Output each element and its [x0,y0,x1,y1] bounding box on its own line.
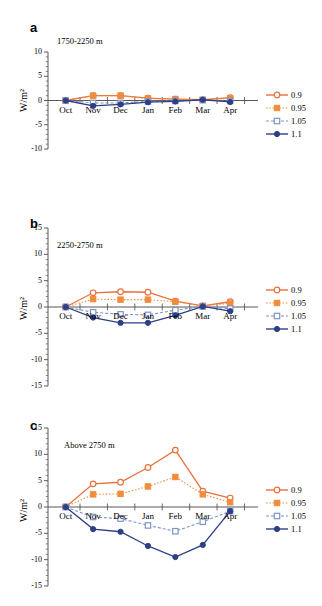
legend-1.05-marker-0 [274,118,279,123]
panel-title-a: 1750-2250 m [57,36,103,46]
series-b-0.95-marker-1 [90,296,95,301]
series-c-0.9-marker-2 [118,479,124,485]
legend-label-0.9: 0.9 [291,90,302,100]
legend-swatch-1.1-icon [266,523,288,535]
legend-item-0.95[interactable]: 0.95 [266,296,306,309]
legend-label-1.05: 1.05 [291,511,306,521]
legend-swatch-1.05-icon [266,310,288,322]
legend-item-0.95[interactable]: 0.95 [266,101,306,114]
panel-letter-a: a [30,20,37,35]
legend-item-0.9[interactable]: 0.9 [266,88,306,101]
y-tick-label-a-3: -5 [16,120,42,129]
x-tick-label-a-nov: Nov [79,105,107,115]
y-tick-label-c-0: 15 [16,423,42,432]
legend-item-1.05[interactable]: 1.05 [266,309,306,322]
x-tick-label-c-feb: Feb [161,511,189,521]
series-a-1.1-marker-4 [173,99,178,104]
series-line-c-0.9 [66,450,230,507]
x-tick-label-c-nov: Nov [79,511,107,521]
legend-b: 0.90.951.051.1 [266,283,306,335]
series-b-0.9-marker-3 [145,289,151,295]
x-tick-label-b-oct: Oct [52,311,80,321]
legend-swatch-1.05-icon [266,510,288,522]
legend-1.1-marker-0 [274,526,279,531]
x-tick-label-a-oct: Oct [52,105,80,115]
legend-label-0.95: 0.95 [291,103,306,113]
legend-0.95-marker-0 [274,500,279,505]
legend-swatch-0.9-icon [266,284,288,296]
series-c-0.95-marker-4 [173,474,178,479]
series-c-1.1-marker-1 [91,527,96,532]
legend-label-1.1: 1.1 [291,524,302,534]
x-tick-label-a-dec: Dec [107,105,135,115]
series-c-1.1-marker-0 [63,504,68,509]
legend-swatch-1.1-icon [266,323,288,335]
x-tick-label-b-dec: Dec [107,311,135,321]
legend-c: 0.90.951.051.1 [266,483,306,535]
plot-area-b [48,228,262,390]
series-c-1.1-marker-5 [200,542,205,547]
series-b-0.95-marker-4 [173,299,178,304]
series-b-1.1-marker-5 [200,304,205,309]
y-tick-label-b-6: -15 [16,381,42,390]
x-tick-label-c-mar: Mar [189,511,217,521]
legend-item-1.05[interactable]: 1.05 [266,509,306,522]
series-b-0.9-marker-1 [90,290,96,296]
legend-item-1.1[interactable]: 1.1 [266,522,306,535]
x-tick-label-a-jan: Jan [134,105,162,115]
legend-item-1.05[interactable]: 1.05 [266,114,306,127]
series-a-0.95-marker-1 [90,93,95,98]
x-tick-label-b-mar: Mar [189,311,217,321]
legend-swatch-1.05-icon [266,115,288,127]
y-tick-label-c-5: -10 [16,555,42,564]
y-tick-label-b-0: 15 [16,223,42,232]
x-tick-label-b-feb: Feb [161,311,189,321]
series-c-1.1-marker-4 [173,554,178,559]
legend-label-1.1: 1.1 [291,129,302,139]
y-tick-label-a-1: 5 [16,71,42,80]
legend-0.95-marker-0 [274,105,279,110]
legend-item-1.1[interactable]: 1.1 [266,322,306,335]
x-tick-label-a-mar: Mar [189,105,217,115]
legend-swatch-0.95-icon [266,497,288,509]
y-tick-label-a-2: 0 [16,96,42,105]
legend-swatch-1.1-icon [266,128,288,140]
series-c-1.1-marker-2 [118,529,123,534]
series-c-0.9-marker-4 [173,447,179,453]
x-tick-label-b-apr: Apr [216,311,244,321]
x-tick-label-a-feb: Feb [161,105,189,115]
series-c-1.1-marker-3 [145,543,150,548]
series-b-0.95-marker-6 [227,301,232,306]
y-tick-label-b-2: 5 [16,276,42,285]
y-tick-label-c-6: -15 [16,581,42,590]
legend-item-0.9[interactable]: 0.9 [266,283,306,296]
legend-1.1-marker-0 [274,326,279,331]
legend-label-0.95: 0.95 [291,498,306,508]
legend-label-1.05: 1.05 [291,311,306,321]
x-tick-label-a-apr: Apr [216,105,244,115]
legend-label-0.9: 0.9 [291,485,302,495]
plot-area-c [48,428,262,590]
legend-label-1.05: 1.05 [291,116,306,126]
series-b-0.95-marker-2 [118,297,123,302]
legend-item-1.1[interactable]: 1.1 [266,127,306,140]
legend-0.95-marker-0 [274,300,279,305]
series-c-0.95-marker-3 [145,484,150,489]
series-c-0.95-marker-5 [200,492,205,497]
x-tick-label-b-nov: Nov [79,311,107,321]
legend-0.9-marker-0 [274,287,280,293]
legend-1.1-marker-0 [274,131,279,136]
series-a-1.1-marker-0 [63,98,68,103]
legend-1.05-marker-0 [274,313,279,318]
x-tick-label-c-jan: Jan [134,511,162,521]
y-tick-label-c-2: 5 [16,476,42,485]
legend-swatch-0.9-icon [266,89,288,101]
legend-item-0.9[interactable]: 0.9 [266,483,306,496]
legend-0.9-marker-0 [274,487,280,493]
x-tick-label-c-oct: Oct [52,511,80,521]
legend-item-0.95[interactable]: 0.95 [266,496,306,509]
series-b-0.95-marker-3 [145,297,150,302]
x-tick-label-b-jan: Jan [134,311,162,321]
legend-0.9-marker-0 [274,92,280,98]
legend-label-0.95: 0.95 [291,298,306,308]
